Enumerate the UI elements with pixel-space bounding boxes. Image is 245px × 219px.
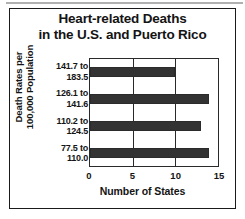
y-axis-tick-label-line: 110.0 xyxy=(67,153,88,164)
bar xyxy=(90,94,209,104)
bar-row xyxy=(90,86,218,113)
x-axis-tick-label: 15 xyxy=(214,170,225,181)
bar-row xyxy=(90,113,218,140)
y-axis-tick-label-line: 110.2 to xyxy=(57,116,88,127)
y-axis-tick-label: 141.7 to 183.5 xyxy=(44,58,88,85)
chart-title: Heart-related Deaths in the U.S. and Pue… xyxy=(12,11,233,43)
y-axis-tick-label: 126.1 to 141.6 xyxy=(44,85,88,112)
y-axis-tick-label-line: 126.1 to xyxy=(56,88,88,99)
y-axis-tick-label-line: 183.5 xyxy=(66,72,88,83)
bar-row xyxy=(90,139,218,166)
y-axis-tick-label-line: 141.7 to xyxy=(56,61,88,72)
bar-series xyxy=(90,59,218,166)
y-axis-tick-labels: 141.7 to 183.5 126.1 to 141.6 110.2 to 1… xyxy=(44,58,88,167)
bar-row xyxy=(90,59,218,86)
y-axis-tick-label-line: 77.5 to xyxy=(61,143,88,154)
plot-area xyxy=(89,58,219,167)
y-axis-tick-label: 77.5 to 110.0 xyxy=(44,140,88,167)
y-axis-title-line-1: Death Rates per xyxy=(13,32,24,142)
y-axis-tick-label-line: 141.6 xyxy=(66,99,88,110)
bar xyxy=(90,121,201,131)
x-axis-tick-label: 0 xyxy=(86,170,91,181)
y-axis-title-line-2: 100,000 Population xyxy=(24,32,35,142)
bar xyxy=(90,148,209,158)
chart-title-line-1: Heart-related Deaths xyxy=(12,11,233,27)
y-axis-title: Death Rates per 100,000 Population xyxy=(13,32,35,142)
x-axis-tick-label: 10 xyxy=(170,170,181,181)
bar xyxy=(90,67,175,77)
y-axis-tick-label-line: 124.5 xyxy=(66,126,88,137)
chart-figure: Heart-related Deaths in the U.S. and Pue… xyxy=(0,0,245,219)
chart-title-line-2: in the U.S. and Puerto Rico xyxy=(12,27,233,43)
page-top-rule xyxy=(6,2,243,4)
x-axis-tick-label: 5 xyxy=(130,170,135,181)
x-axis-title: Number of States xyxy=(60,185,225,197)
x-axis-tick-labels: 051015 xyxy=(89,170,219,182)
y-axis-tick-label: 110.2 to 124.5 xyxy=(44,113,88,140)
